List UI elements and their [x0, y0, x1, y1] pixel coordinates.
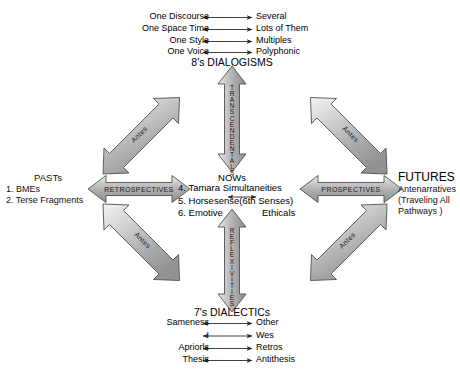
svg-text:L: L — [230, 245, 234, 252]
pair-right-label: Lots of Them — [256, 23, 308, 33]
svg-text:I: I — [231, 264, 233, 271]
futures-heading: FUTURES — [398, 170, 460, 184]
svg-text:F: F — [230, 239, 234, 246]
center-line-emotive-ethicals: 6. Emotive Ethicals — [178, 207, 293, 219]
center-line-horsesense: 5. Horsesense(6th Senses) — [178, 195, 293, 208]
ethicals-label: Ethicals — [262, 207, 295, 220]
transcendentals-label: TRANSCENDENTALS — [230, 84, 235, 176]
transcendentals-arrow — [218, 66, 246, 172]
svg-text:T: T — [230, 84, 234, 91]
pair-row: Apriorls Retros — [212, 343, 252, 354]
pair-right-label: Other — [256, 317, 279, 327]
futures-block: FUTURES Antenarratives (Traveling All Pa… — [398, 170, 460, 217]
pair-right-label: Antithesis — [256, 354, 295, 364]
antes-label-nw: Antes — [130, 125, 149, 144]
center-block: 4. Tamara Simultaneities 5. Horsesense(6… — [178, 182, 293, 219]
antes-label-ne: Antes — [341, 125, 360, 144]
svg-text:R: R — [230, 90, 235, 97]
svg-text:D: D — [230, 133, 235, 140]
futures-item: Pathways ) — [398, 206, 460, 217]
pair-left-label: Thesis — [182, 354, 209, 364]
antes-label-se: Antes — [338, 231, 357, 250]
pasts-block: PASTs 1. BMEs 2. Terse Fragments — [6, 172, 90, 206]
pair-row: One Style Multiples — [212, 36, 252, 47]
prospectives-label: PROSPECTIVES — [321, 186, 380, 193]
antes-label-sw: Antes — [133, 231, 152, 250]
pair-left-label: Apriorls — [178, 342, 209, 352]
svg-text:E: E — [230, 294, 235, 301]
svg-text:N: N — [230, 127, 235, 134]
pair-left-label: Sameness — [166, 317, 209, 327]
dialogisms-title: 8's DIALOGISMS — [162, 56, 302, 68]
pasts-heading: PASTs — [6, 172, 90, 183]
svg-text:E: E — [230, 251, 235, 258]
pair-row: I Wes — [212, 331, 252, 342]
svg-text:A: A — [230, 96, 235, 103]
emotive-label: 6. Emotive — [178, 207, 223, 218]
pasts-item: 2. Terse Fragments — [6, 195, 90, 206]
svg-text:S: S — [230, 108, 235, 115]
reflexivities-arrow — [218, 209, 246, 312]
pair-right-label: Wes — [256, 330, 274, 340]
pair-left-label: One Style — [169, 35, 209, 45]
pair-right-label: Retros — [256, 342, 283, 352]
pair-right-label: Polyphonic — [256, 46, 300, 56]
svg-text:N: N — [230, 102, 235, 109]
svg-text:L: L — [230, 163, 234, 170]
svg-text:E: E — [230, 233, 235, 240]
pair-row: Thesis Antithesis — [212, 355, 252, 366]
retrospectives-arrow — [88, 176, 190, 203]
svg-text:I: I — [231, 288, 233, 295]
svg-text:T: T — [230, 151, 234, 158]
futures-item: (Traveling All — [398, 195, 460, 206]
pair-row: One Discourse Several — [212, 12, 252, 23]
retrospectives-label: RETROSPECTIVES — [104, 186, 173, 193]
prospectives-arrow — [300, 176, 402, 203]
antes-arrow-southeast — [311, 204, 388, 281]
pair-left-label: I — [206, 330, 209, 340]
pair-left-label: One Voice — [167, 46, 209, 56]
svg-text:T: T — [230, 282, 234, 289]
pair-row: Sameness Other — [212, 318, 252, 329]
svg-text:I: I — [231, 276, 233, 283]
svg-text:N: N — [230, 145, 235, 152]
svg-text:C: C — [230, 115, 235, 122]
pair-right-label: Several — [256, 11, 287, 21]
svg-text:E: E — [230, 121, 235, 128]
antes-arrow-northwest — [103, 98, 180, 175]
pair-right-label: Multiples — [256, 35, 292, 45]
futures-item: Antenarratives — [398, 184, 460, 195]
pasts-item: 1. BMEs — [6, 184, 90, 195]
svg-text:R: R — [230, 227, 235, 234]
antes-arrow-northeast — [311, 98, 388, 175]
pair-left-label: One Discourse — [149, 11, 209, 21]
svg-text:X: X — [230, 258, 235, 265]
svg-text:A: A — [230, 157, 235, 164]
center-line-tamara: 4. Tamara Simultaneities — [178, 182, 293, 195]
pair-left-label: One Space Time — [142, 23, 209, 33]
pair-row: One Space Time Lots of Them — [212, 24, 252, 35]
svg-text:E: E — [230, 139, 235, 146]
reflexivities-label: REFLEXIVITIES — [230, 227, 235, 307]
antes-arrow-southwest — [103, 204, 180, 281]
svg-text:V: V — [230, 270, 235, 277]
antenarrative-diagram: RETROSPECTIVES PROSPECTIVES Antes Antes … — [0, 0, 460, 370]
